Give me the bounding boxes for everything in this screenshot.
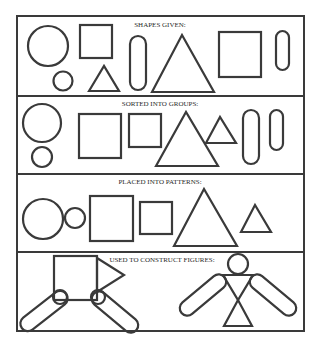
small-triangle xyxy=(241,205,271,232)
panel-title: USED TO CONSTRUCT FIGURES: xyxy=(109,256,214,264)
small-square xyxy=(80,25,112,58)
panel-shapes-given: SHAPES GIVEN: xyxy=(28,21,289,92)
panel-title: PLACED INTO PATTERNS: xyxy=(118,178,201,186)
panel-placed-into-patterns: PLACED INTO PATTERNS: xyxy=(23,178,271,246)
small-circle xyxy=(32,147,52,167)
small-triangle xyxy=(89,66,119,91)
panel-sorted-into-groups: SORTED INTO GROUPS: xyxy=(23,100,283,167)
figure-left-capsule xyxy=(17,288,70,334)
small-capsule xyxy=(276,31,289,70)
large-circle xyxy=(23,199,63,239)
figure-torso-triangle xyxy=(223,275,253,300)
panel-used-to-construct-figures: USED TO CONSTRUCT FIGURES: xyxy=(17,254,299,336)
large-triangle xyxy=(152,35,214,92)
small-square xyxy=(140,202,172,234)
panel-title: SORTED INTO GROUPS: xyxy=(122,100,199,108)
figure-right-arm-capsule xyxy=(247,271,300,318)
large-square xyxy=(90,196,133,241)
large-square xyxy=(79,114,121,158)
figure-legs-triangle xyxy=(224,300,252,326)
large-circle xyxy=(28,26,68,66)
figure-left-arm-capsule xyxy=(177,271,230,318)
large-capsule xyxy=(243,110,259,164)
human-figure xyxy=(177,254,300,326)
figure-head-circle xyxy=(228,254,248,274)
large-circle xyxy=(23,104,61,142)
small-triangle xyxy=(206,117,236,143)
square-body-figure xyxy=(17,256,141,336)
small-circle xyxy=(65,208,85,228)
small-capsule xyxy=(270,110,283,150)
panel-title: SHAPES GIVEN: xyxy=(134,21,186,29)
large-square xyxy=(219,32,261,77)
large-capsule xyxy=(130,36,146,90)
figure-square-body xyxy=(54,256,97,300)
shapes-diagram: SHAPES GIVEN: SORTED INTO GROUPS: PLACED… xyxy=(0,0,318,342)
small-circle xyxy=(54,72,73,91)
large-triangle xyxy=(174,189,237,246)
small-square xyxy=(129,114,161,147)
